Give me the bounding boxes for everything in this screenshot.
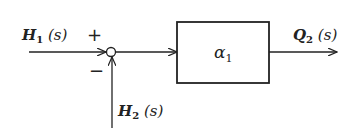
minus-sign: − xyxy=(89,62,104,80)
q2-arg: (s) xyxy=(318,26,337,44)
q2-symbol: Q xyxy=(293,26,306,44)
h1-symbol: H xyxy=(22,26,36,44)
output-q2-label: Q2 (s) xyxy=(293,28,337,45)
plus-sign: + xyxy=(87,26,102,44)
summing-junction xyxy=(107,48,116,57)
alpha-subscript: 1 xyxy=(225,52,232,65)
h1-arg: (s) xyxy=(48,26,67,44)
block-label: α1 xyxy=(214,44,232,64)
h2-symbol: H xyxy=(118,102,132,120)
h1-subscript: 1 xyxy=(36,34,43,45)
h2-arg: (s) xyxy=(144,102,163,120)
input-h2-label: H2 (s) xyxy=(118,104,163,121)
input-h1-label: H1 (s) xyxy=(22,28,67,45)
alpha-symbol: α xyxy=(214,42,225,62)
diagram-lines xyxy=(0,0,360,136)
q2-subscript: 2 xyxy=(306,34,313,45)
h2-subscript: 2 xyxy=(132,110,139,121)
block-diagram: H1 (s) + − H2 (s) α1 Q2 (s) xyxy=(0,0,360,136)
